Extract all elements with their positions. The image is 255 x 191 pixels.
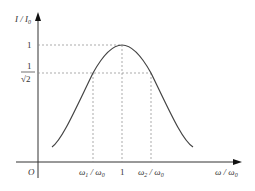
x-tick-w2: ω2 / ω0 <box>138 167 164 178</box>
y-axis-label: I / I0 <box>14 14 31 25</box>
x-axis-label: ω / ω0 <box>215 167 238 178</box>
x-axis-arrow-icon <box>233 159 242 165</box>
x-tick-one: 1 <box>120 167 125 177</box>
y-tick-frac-numerator: 1 <box>27 61 32 71</box>
origin-label: O <box>28 167 35 177</box>
resonance-curve <box>52 45 193 147</box>
y-tick-frac-denominator: √2 <box>21 74 30 84</box>
y-axis-arrow-icon <box>35 12 41 21</box>
y-tick-one: 1 <box>27 40 32 50</box>
x-tick-w1: ω1 / ω0 <box>79 167 105 178</box>
resonance-chart: I / I0 1 1 √2 O ω1 / ω0 1 ω2 / ω0 ω / ω0 <box>0 0 255 191</box>
